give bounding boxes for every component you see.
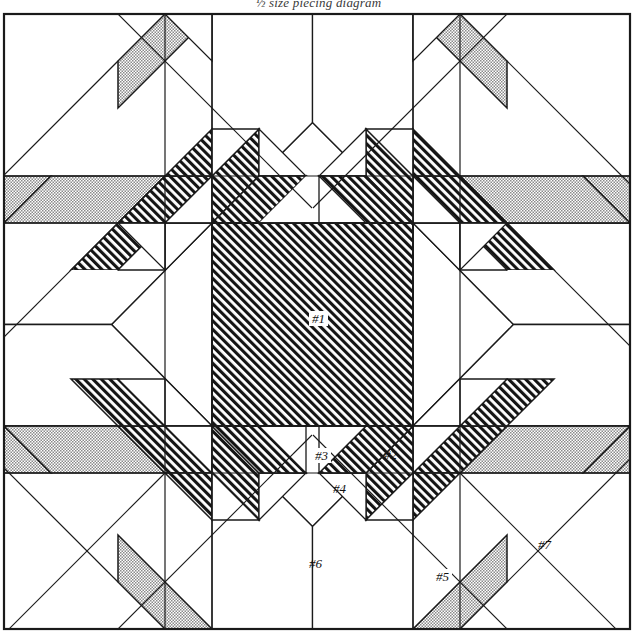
piece-label-4: #4 <box>333 482 346 496</box>
block-contents <box>4 14 630 640</box>
page-root: ½ size piecing diagram <box>0 0 637 640</box>
piece-label-5: #5 <box>433 569 452 584</box>
piece-label-1: #1 <box>309 311 328 326</box>
piece-label-2: #2 <box>384 448 397 462</box>
piece-label-7: #7 <box>538 538 551 552</box>
quilt-piecing-diagram: #1 #2 #3 #4 #5 #6 #7 <box>0 0 637 640</box>
piece-label-6: #6 <box>309 557 322 571</box>
piece-label-3: #3 <box>312 448 331 463</box>
